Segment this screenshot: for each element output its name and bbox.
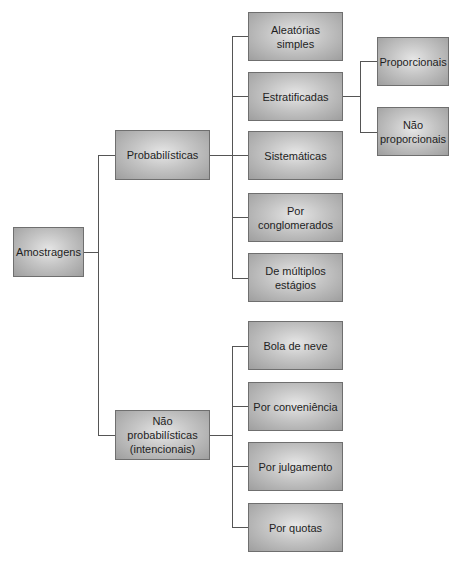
node-label: Bola de neve [263, 339, 327, 353]
node-bola-de-neve: Bola de neve [248, 321, 343, 370]
node-label: Não proporcionais [380, 118, 446, 146]
node-label: Por conglomerados [251, 204, 340, 232]
node-sistematicas: Sistemáticas [248, 131, 343, 180]
node-label: Aleatórias simples [251, 23, 340, 51]
node-label: Sistemáticas [264, 149, 326, 163]
node-por-conveniencia: Por conveniência [248, 382, 343, 431]
node-probabilisticas: Probabilísticas [115, 130, 210, 180]
node-de-multiplos-estagios: De múltiplos estágios [248, 253, 343, 302]
node-por-julgamento: Por julgamento [248, 442, 343, 491]
node-label: Não probabilísticas (intencionais) [118, 414, 207, 456]
node-por-conglomerados: Por conglomerados [248, 193, 343, 242]
node-proporcionais: Proporcionais [377, 37, 449, 86]
node-label: Estratificadas [262, 90, 328, 104]
node-aleatorias-simples: Aleatórias simples [248, 12, 343, 61]
node-amostragens: Amostragens [13, 227, 84, 277]
node-label: Por conveniência [253, 400, 337, 414]
node-label: Probabilísticas [127, 148, 199, 162]
node-nao-probabilisticas: Não probabilísticas (intencionais) [115, 410, 210, 460]
node-label: Proporcionais [379, 55, 446, 69]
node-label: Por julgamento [259, 460, 333, 474]
node-por-quotas: Por quotas [248, 503, 343, 552]
node-nao-proporcionais: Não proporcionais [377, 107, 449, 156]
node-label: Amostragens [16, 245, 81, 259]
node-label: Por quotas [269, 521, 322, 535]
node-label: De múltiplos estágios [265, 264, 326, 292]
node-estratificadas: Estratificadas [248, 72, 343, 121]
